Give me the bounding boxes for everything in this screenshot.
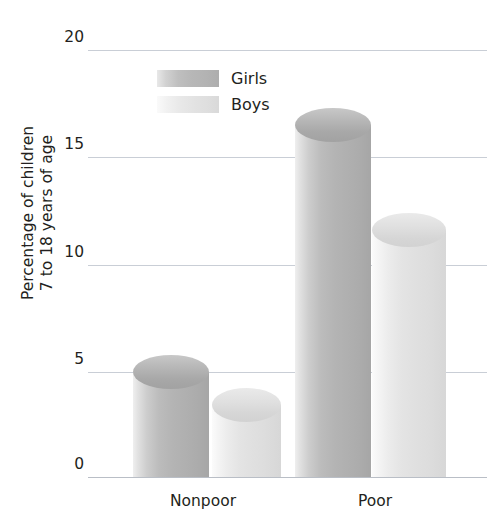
bar-chart: Percentage of children 7 to 18 years of … (0, 0, 495, 530)
legend-swatch-girls-icon (157, 70, 219, 87)
bar-poor-girls (295, 125, 371, 477)
bar-poor-boys (372, 230, 446, 477)
chart-legend: Girls Boys (157, 70, 270, 113)
bar-body (372, 230, 446, 477)
legend-label-girls: Girls (231, 71, 267, 87)
bar-nonpoor-girls (133, 372, 209, 477)
legend-item-girls: Girls (157, 70, 270, 87)
legend-item-boys: Boys (157, 96, 270, 113)
bar-body (212, 405, 281, 477)
bar-nonpoor-boys (212, 405, 281, 477)
legend-label-boys: Boys (231, 97, 270, 113)
bar-body (295, 125, 371, 477)
bar-body (133, 372, 209, 477)
legend-swatch-boys-icon (157, 96, 219, 113)
x-axis-label-poor: Poor (330, 492, 420, 510)
x-axis-label-nonpoor: Nonpoor (143, 492, 263, 510)
